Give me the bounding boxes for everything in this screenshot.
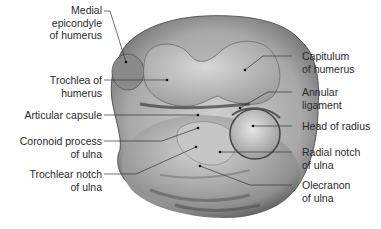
- label-trochlea: Trochlea of humerus: [50, 74, 102, 99]
- label-coronoid-process: Coronoid process of ulna: [20, 135, 102, 160]
- anatomy-figure: Medial epicondyle of humerus Trochlea of…: [0, 0, 381, 229]
- label-trochlear-notch: Trochlear notch of ulna: [29, 168, 102, 193]
- label-capitulum: Capitulum of humerus: [302, 50, 355, 75]
- label-head-of-radius: Head of radius: [302, 120, 370, 133]
- label-articular-capsule: Articular capsule: [24, 109, 102, 122]
- label-medial-epicondyle: Medial epicondyle of humerus: [49, 4, 102, 42]
- label-olecranon: Olecranon of ulna: [302, 179, 350, 204]
- medial-epicondyle-shape: [112, 54, 144, 90]
- label-radial-notch: Radial notch of ulna: [302, 146, 360, 171]
- label-annular-ligament: Annular ligament: [302, 86, 342, 111]
- head-of-radius-shape: [230, 109, 280, 159]
